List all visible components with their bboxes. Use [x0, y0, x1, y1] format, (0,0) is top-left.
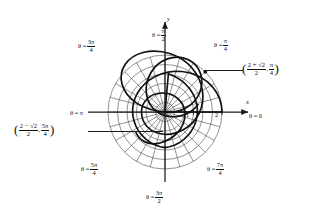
theta-pi-2-label: θ = π 2: [152, 28, 167, 42]
theta-3pi-4-label: θ = 3π 4: [78, 39, 96, 53]
theta-pi-2-prefix: θ =: [152, 32, 160, 38]
theta-7pi-4-den: 4: [216, 170, 224, 177]
theta-3pi-4-prefix: θ =: [78, 43, 86, 49]
point-lower-theta-den: 4: [41, 131, 50, 138]
theta-7pi-4-prefix: θ =: [207, 166, 215, 172]
theta-pi-4-label: θ = π 4: [214, 38, 229, 52]
point-lower-r-den: 2: [19, 131, 38, 138]
theta-3pi-2-den: 2: [155, 198, 163, 205]
y-axis-label: y: [167, 16, 170, 23]
radial-tick-label-2: 2: [215, 112, 218, 118]
theta-3pi-4-den: 4: [87, 47, 95, 54]
theta-pi-label: θ = π: [70, 110, 83, 116]
theta-3pi-2-prefix: θ =: [146, 194, 154, 200]
point-upper-theta-den: 4: [269, 70, 274, 77]
theta-5pi-4-prefix: θ =: [81, 166, 89, 172]
point-label-lower-left: ( 2 − √2 2 , 5π 4 ): [14, 123, 54, 137]
x-axis-label: x: [246, 99, 249, 106]
theta-pi-4-den: 4: [223, 46, 228, 53]
theta-pi-2-den: 2: [161, 36, 166, 43]
theta-0-label: θ = 0: [249, 113, 262, 119]
theta-3pi-2-label: θ = 3π 2: [146, 190, 164, 204]
radial-tick-label-1: 1: [186, 112, 189, 118]
theta-5pi-4-label: θ = 5π 4: [81, 162, 99, 176]
theta-5pi-4-den: 4: [90, 170, 98, 177]
polar-plot-figure: y x 1 2 θ = 0 θ = π 4 θ = π 2 θ = 3π 4 θ…: [0, 0, 309, 217]
theta-7pi-4-label: θ = 7π 4: [207, 162, 225, 176]
theta-pi-4-prefix: θ =: [214, 42, 222, 48]
point-label-upper-right: ( 2 + √2 2 , π 4 ): [242, 62, 279, 76]
point-upper-r-den: 2: [247, 70, 266, 77]
